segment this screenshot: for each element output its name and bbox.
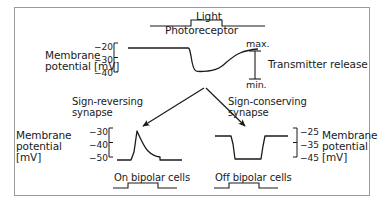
sign-conserving-synapse-label-line1: Sign-conserving: [228, 97, 307, 108]
light-stimulus-label: Light: [196, 11, 222, 22]
on-bipolar-tick-3: −50: [84, 153, 108, 163]
sign-reversing-synapse-label-line2: synapse: [72, 108, 113, 119]
off-bipolar-caption: Off bipolar cells: [215, 173, 292, 184]
off-bipolar-tick-3: −45: [300, 153, 322, 163]
on-bipolar-tick-1: −30: [84, 127, 108, 137]
on-bipolar-tick-2: −40: [84, 140, 108, 150]
sign-reversing-synapse-label-line1: Sign-reversing: [72, 97, 143, 108]
off-bipolar-axis-label-line3: [mV]: [322, 152, 347, 163]
transmitter-max-label: max.: [246, 39, 269, 49]
off-bipolar-tick-1: −25: [300, 127, 322, 137]
transmitter-release-label: Transmitter release: [268, 59, 368, 70]
transmitter-min-label: min.: [246, 80, 267, 90]
photoreceptor-tick-3: −40: [89, 68, 113, 78]
off-bipolar-tick-2: −35: [300, 140, 322, 150]
photoreceptor-tick-1: −20: [89, 42, 113, 52]
photoreceptor-label: Photoreceptor: [165, 25, 238, 36]
on-bipolar-axis-label-line3: [mV]: [16, 152, 41, 163]
on-bipolar-caption: On bipolar cells: [114, 173, 190, 184]
sign-conserving-synapse-label-line2: synapse: [228, 108, 269, 119]
photoreceptor-tick-2: −30: [89, 55, 113, 65]
retina-signal-transduction-figure: Light Photoreceptor Membrane potential […: [0, 0, 385, 212]
